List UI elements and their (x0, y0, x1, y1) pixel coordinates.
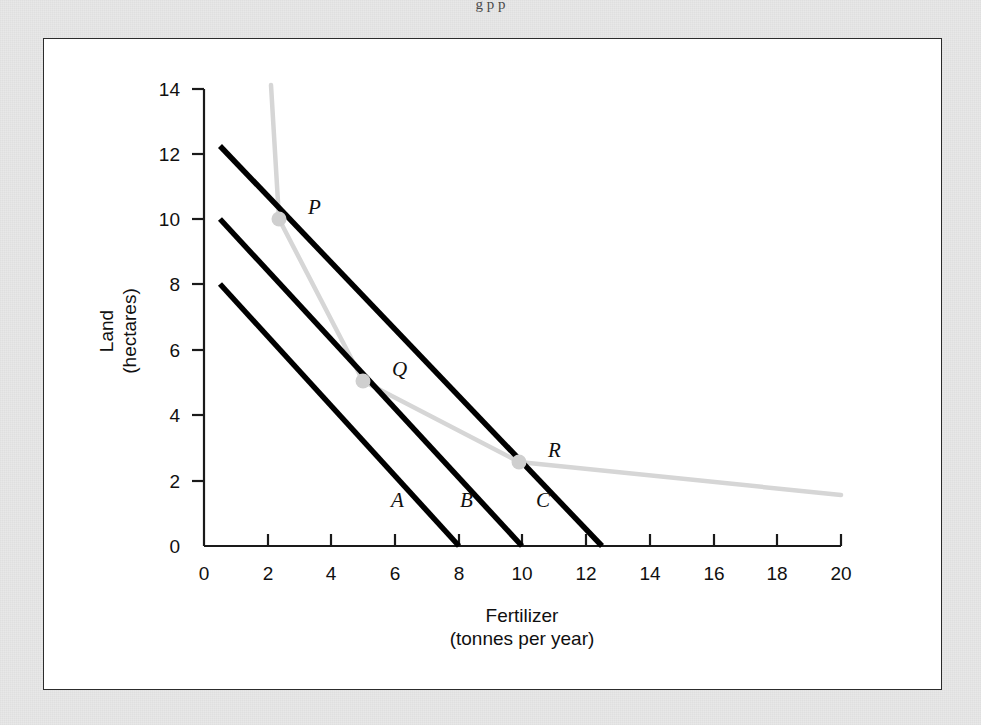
y-tick-label-14: 14 (159, 79, 181, 100)
y-tick-label-0: 0 (169, 536, 180, 557)
x-tick-label-20: 20 (830, 563, 851, 584)
x-axis-title: Fertilizer (tonnes per year) (450, 605, 595, 649)
point-label-R: R (547, 438, 561, 462)
x-tick-label-6: 6 (390, 563, 401, 584)
y-tick-label-4: 4 (169, 405, 180, 426)
x-tick-label-2: 2 (263, 563, 274, 584)
y-tick-label-8: 8 (169, 274, 180, 295)
line-label-A: A (389, 488, 404, 512)
axes (192, 89, 841, 546)
isocost-line-B (220, 219, 522, 546)
caption-cutoff-text: g p p (0, 0, 981, 14)
isoquant-isocost-chart: 14 12 10 8 6 4 2 0 0 2 4 6 8 10 12 14 16… (44, 39, 940, 688)
x-tick-label-18: 18 (766, 563, 787, 584)
x-axis-title-line1: Fertilizer (486, 605, 560, 626)
y-tick-label-12: 12 (159, 144, 180, 165)
y-tick-label-2: 2 (169, 471, 180, 492)
y-axis-ticks (192, 89, 204, 481)
marker-point-R (512, 455, 527, 470)
x-tick-label-12: 12 (575, 563, 596, 584)
line-label-B: B (460, 488, 473, 512)
y-tick-label-10: 10 (159, 209, 180, 230)
y-axis-title: Land (hectares) (96, 288, 140, 374)
marker-point-Q (356, 374, 371, 389)
x-tick-label-4: 4 (326, 563, 337, 584)
point-label-P: P (307, 195, 321, 219)
marker-point-P (272, 212, 287, 227)
y-tick-label-6: 6 (169, 340, 180, 361)
point-label-Q: Q (392, 357, 407, 381)
isocost-line-A (220, 284, 459, 546)
x-axis-title-line2: (tonnes per year) (450, 628, 595, 649)
x-tick-label-0: 0 (199, 563, 210, 584)
y-tick-labels: 14 12 10 8 6 4 2 0 (159, 79, 181, 557)
x-axis-ticks (268, 534, 841, 546)
y-axis-title-line2: (hectares) (119, 288, 140, 374)
x-tick-label-10: 10 (511, 563, 532, 584)
figure-panel: 14 12 10 8 6 4 2 0 0 2 4 6 8 10 12 14 16… (43, 38, 942, 690)
x-tick-label-8: 8 (454, 563, 465, 584)
y-axis-title-line1: Land (96, 310, 117, 352)
x-tick-label-16: 16 (703, 563, 724, 584)
x-tick-label-14: 14 (639, 563, 661, 584)
line-label-C: C (536, 488, 551, 512)
x-tick-labels: 0 2 4 6 8 10 12 14 16 18 20 (199, 563, 852, 584)
